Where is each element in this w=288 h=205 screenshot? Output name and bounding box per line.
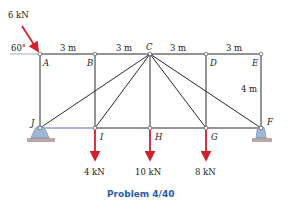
member-CI	[95, 54, 150, 128]
member-CG	[150, 54, 206, 128]
node-label-G: G	[211, 132, 218, 142]
angle-label: 60°	[11, 43, 26, 53]
joints	[38, 52, 263, 130]
node-label-E: E	[251, 58, 259, 68]
span-label-2: 3 m	[116, 43, 132, 53]
node-label-H: H	[154, 132, 163, 142]
span-label-3: 3 m	[170, 43, 186, 53]
load-label-I: 4 kN	[84, 167, 105, 177]
load-label-H: 10 kN	[135, 167, 162, 177]
span-label-1: 3 m	[60, 43, 76, 53]
truss-diagram: 6 kN 60° 3 m 3 m 3 m 3 m 4 m A B C D E J…	[0, 0, 288, 205]
node-label-I: I	[99, 132, 104, 142]
node-label-D: D	[209, 58, 217, 68]
node-label-F: F	[266, 117, 274, 127]
node-label-J: J	[29, 118, 35, 128]
applied-load-label: 6 kN	[8, 10, 29, 20]
height-label: 4 m	[241, 84, 257, 94]
node-label-C: C	[146, 42, 153, 52]
problem-caption: Problem 4/40	[107, 189, 174, 199]
node-label-B: B	[86, 58, 93, 68]
span-label-4: 3 m	[226, 43, 242, 53]
load-label-G: 8 kN	[195, 167, 216, 177]
node-label-A: A	[42, 58, 49, 68]
